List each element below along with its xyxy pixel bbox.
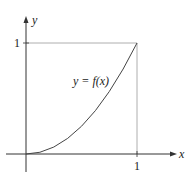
curve-label: y = f(x) [72, 74, 109, 88]
function-graph: y x 1 1 y = f(x) [0, 0, 193, 184]
y-axis-label: y [31, 13, 38, 27]
function-curve [26, 43, 137, 154]
graph-svg: y x 1 1 y = f(x) [0, 0, 193, 184]
x-axis-arrow-icon [170, 152, 177, 157]
y-tick-label: 1 [14, 36, 20, 50]
x-axis-label: x [178, 147, 185, 161]
x-tick-label: 1 [134, 159, 140, 173]
y-axis-arrow-icon [24, 16, 29, 23]
